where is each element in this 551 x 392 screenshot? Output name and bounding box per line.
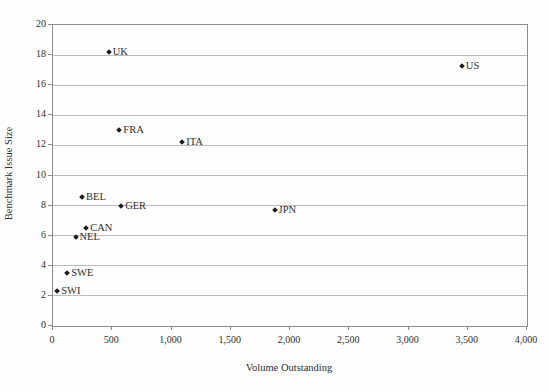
y-tick-label: 6 <box>16 229 46 241</box>
plot-area: UKUSFRAITABELGERJPNCANNELSWESWI <box>52 24 528 327</box>
gridline <box>53 115 527 116</box>
point-marker-diamond <box>459 63 465 69</box>
y-tick-mark <box>48 84 52 85</box>
point-marker-diamond <box>117 128 123 134</box>
x-tick-mark <box>111 326 112 330</box>
y-tick-label: 16 <box>16 78 46 90</box>
x-tick-label: 3,000 <box>386 334 430 346</box>
point-label: GER <box>125 200 146 212</box>
point-marker-diamond <box>64 270 70 276</box>
x-tick-mark <box>289 326 290 330</box>
point-label: NEL <box>80 231 100 243</box>
y-tick-mark <box>48 24 52 25</box>
point-marker-diamond <box>54 289 60 295</box>
point-label: SWI <box>61 285 80 297</box>
y-tick-mark <box>48 205 52 206</box>
y-axis-title: Benchmark Issue Size <box>3 104 14 244</box>
point-label: US <box>466 60 479 72</box>
x-tick-label: 4,000 <box>504 334 548 346</box>
point-label: FRA <box>123 124 143 136</box>
point-label: BEL <box>86 191 106 203</box>
x-tick-mark <box>230 326 231 330</box>
x-tick-mark <box>526 326 527 330</box>
gridline <box>53 295 527 296</box>
x-axis-title: Volume Outstanding <box>52 362 526 373</box>
x-tick-mark <box>348 326 349 330</box>
x-tick-label: 1,000 <box>149 334 193 346</box>
gridline <box>53 145 527 146</box>
point-label: JPN <box>279 204 297 216</box>
y-tick-mark <box>48 265 52 266</box>
gridline <box>53 85 527 86</box>
x-tick-mark <box>171 326 172 330</box>
point-marker-diamond <box>83 225 89 231</box>
y-tick-mark <box>48 175 52 176</box>
y-tick-label: 20 <box>16 18 46 30</box>
x-tick-label: 0 <box>30 334 74 346</box>
x-tick-label: 500 <box>89 334 133 346</box>
y-tick-label: 8 <box>16 199 46 211</box>
scatter-chart: Benchmark Issue Size UKUSFRAITABELGERJPN… <box>0 0 551 392</box>
y-tick-label: 12 <box>16 138 46 150</box>
gridline <box>53 175 527 176</box>
y-tick-mark <box>48 144 52 145</box>
y-tick-label: 2 <box>16 289 46 301</box>
point-marker-diamond <box>272 207 278 213</box>
point-label: ITA <box>186 136 203 148</box>
point-label: UK <box>113 46 128 58</box>
y-tick-label: 18 <box>16 48 46 60</box>
point-marker-diamond <box>73 234 79 240</box>
point-marker-diamond <box>118 203 124 209</box>
y-tick-label: 4 <box>16 259 46 271</box>
x-tick-mark <box>52 326 53 330</box>
gridline <box>53 235 527 236</box>
y-tick-mark <box>48 235 52 236</box>
x-tick-label: 2,500 <box>326 334 370 346</box>
y-tick-mark <box>48 114 52 115</box>
y-tick-mark <box>48 54 52 55</box>
y-tick-label: 0 <box>16 319 46 331</box>
y-tick-label: 14 <box>16 108 46 120</box>
x-tick-mark <box>467 326 468 330</box>
x-tick-mark <box>408 326 409 330</box>
y-tick-label: 10 <box>16 169 46 181</box>
x-tick-label: 2,000 <box>267 334 311 346</box>
point-label: SWE <box>71 267 93 279</box>
point-marker-diamond <box>79 194 85 200</box>
x-tick-label: 3,500 <box>445 334 489 346</box>
y-tick-mark <box>48 295 52 296</box>
gridline <box>53 265 527 266</box>
x-tick-label: 1,500 <box>208 334 252 346</box>
